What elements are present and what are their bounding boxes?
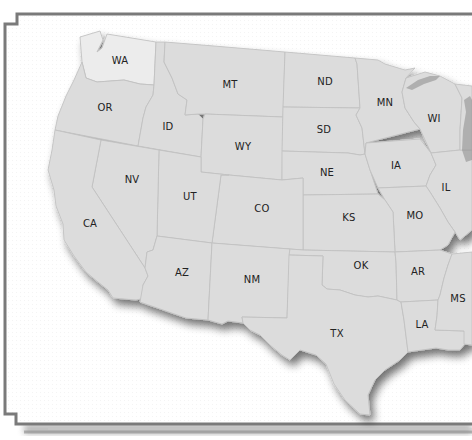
state-label-ia: IA (391, 160, 401, 171)
map-panel: WA OR ID MT ND MN WI SD WY NV UT NE IA I… (0, 0, 472, 440)
state-label-ks: KS (342, 212, 355, 223)
state-label-ar: AR (411, 266, 425, 277)
state-label-mn: MN (377, 97, 394, 108)
state-label-nd: ND (317, 76, 333, 87)
state-label-wa: WA (112, 55, 129, 66)
state-label-ca: CA (83, 218, 97, 229)
state-label-az: AZ (175, 267, 189, 278)
state-label-wy: WY (235, 141, 251, 152)
state-label-or: OR (97, 102, 112, 113)
state-label-ok: OK (354, 260, 369, 271)
state-ks[interactable] (303, 194, 395, 252)
state-label-wi: WI (427, 113, 440, 124)
state-label-la: LA (415, 319, 428, 330)
state-label-ne: NE (320, 167, 334, 178)
state-label-sd: SD (317, 124, 331, 135)
state-label-mt: MT (222, 79, 237, 90)
state-label-nv: NV (125, 174, 140, 185)
state-label-mo: MO (407, 210, 424, 221)
state-label-tx: TX (330, 328, 343, 339)
state-label-ms: MS (450, 293, 465, 304)
state-label-il: IL (442, 182, 451, 193)
state-label-id: ID (162, 121, 173, 132)
state-label-nm: NM (244, 274, 261, 285)
us-map (0, 0, 472, 440)
state-label-co: CO (254, 203, 269, 214)
state-label-ut: UT (183, 191, 197, 202)
